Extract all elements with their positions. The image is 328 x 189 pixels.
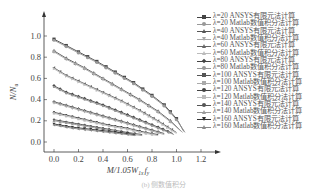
- y-tick-label: 0.8: [30, 52, 41, 62]
- legend-marker-icon: [197, 21, 211, 27]
- legend-marker-icon: [197, 65, 211, 71]
- legend-marker-icon: [197, 72, 211, 78]
- x-tick-label: 1.0: [171, 154, 182, 164]
- y-tick-label: 0.0: [30, 137, 41, 147]
- x-tick-label: 0.4: [98, 154, 109, 164]
- legend-marker-icon: [197, 80, 211, 86]
- legend-item: λ=160 Matlab数值积分法计算: [197, 123, 302, 130]
- y-axis-arrow-icon: [42, 11, 46, 17]
- legend-marker-icon: [197, 36, 211, 42]
- x-tick-label: 0.0: [49, 154, 60, 164]
- legend-marker-icon: [197, 102, 211, 108]
- x-axis-arrow-icon: [215, 150, 221, 154]
- legend-marker-icon: [197, 58, 211, 64]
- x-tick-label: 0.6: [122, 154, 133, 164]
- legend-marker-icon: [197, 87, 211, 93]
- x-tick-label: 0.8: [147, 154, 158, 164]
- legend-marker-icon: [197, 50, 211, 56]
- y-tick-label: 1.0: [30, 31, 41, 41]
- x-axis-label: M/1.05W1xfy: [106, 165, 150, 176]
- y-tick-label: 0.6: [30, 73, 41, 83]
- legend-marker-icon: [197, 116, 211, 122]
- legend-marker-icon: [197, 109, 211, 115]
- y-axis-label: N/Nu: [8, 84, 19, 102]
- x-tick-label: 1.2: [196, 154, 207, 164]
- legend-marker-icon: [197, 14, 211, 20]
- y-tick-label: 0.2: [30, 115, 41, 125]
- x-tick-label: 0.2: [73, 154, 84, 164]
- legend-marker-icon: [197, 43, 211, 49]
- legend-marker-icon: [197, 124, 211, 130]
- legend-marker-icon: [197, 94, 211, 100]
- chart-legend: λ=20 ANSYS有限元法计算λ=20 Matlab数值积分法计算λ=40 A…: [197, 13, 302, 131]
- y-tick-label: 0.4: [30, 94, 41, 104]
- legend-marker-icon: [197, 28, 211, 34]
- legend-label: λ=160 Matlab数值积分法计算: [213, 123, 302, 130]
- figure-caption: (b) 侧数值积分: [0, 179, 328, 189]
